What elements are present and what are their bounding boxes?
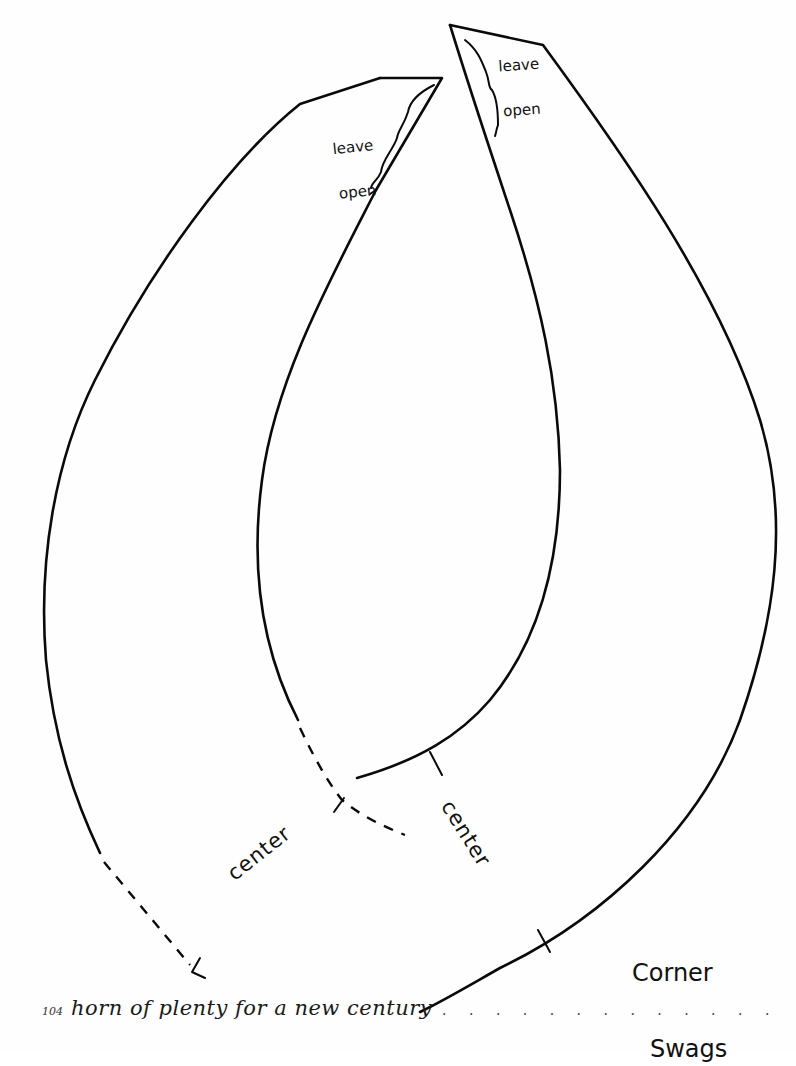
left-piece-inner-dashed-fold	[300, 728, 405, 835]
left-piece-outer-edge	[44, 78, 380, 853]
leave-open-line2: open	[501, 102, 543, 120]
leave-open-line1: leave	[498, 57, 540, 75]
leave-open-line1: leave	[332, 138, 374, 157]
left-piece-top-edge	[376, 78, 442, 190]
right-piece-leave-open-note: leave open	[496, 27, 545, 150]
page-footer: 104 horn of plenty for a new century . .…	[42, 996, 792, 1026]
pattern-title-line1: Corner	[632, 961, 727, 986]
footer-dot-leader: . . . . . . . . . . . . . . . . . . . . …	[442, 1002, 792, 1018]
book-title: horn of plenty for a new century	[71, 996, 432, 1020]
pattern-title: Corner Swags	[632, 911, 727, 1066]
page-number: 104	[42, 1005, 63, 1018]
left-piece-inner-center-notch	[334, 798, 344, 812]
left-piece-leave-open-bracket	[370, 85, 434, 194]
left-piece-inner-edge	[258, 190, 377, 720]
pattern-title-line2: Swags	[632, 1037, 727, 1062]
leave-open-line2: open	[337, 183, 379, 202]
left-piece-center-notch	[192, 958, 205, 978]
right-piece-inner-center-notch	[430, 752, 442, 775]
left-piece-outer-dashed-fold	[104, 862, 190, 965]
